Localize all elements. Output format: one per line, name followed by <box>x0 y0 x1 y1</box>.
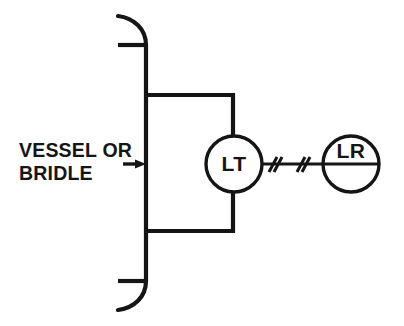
instrument-bubble-lt[interactable]: LT <box>206 136 262 192</box>
lower-impulse-tap-line <box>146 192 233 231</box>
electric-signal-group <box>262 157 323 172</box>
vessel-annotation-line-1: VESSEL OR <box>19 139 132 161</box>
lt-bubble-tag: LT <box>221 152 246 175</box>
instrument-bubble-lr[interactable]: LR <box>323 136 379 192</box>
vessel-annotation-line-2: BRIDLE <box>19 162 93 184</box>
vessel-annotation-label: VESSEL OR BRIDLE <box>19 139 132 184</box>
pid-diagram-svg: LT LR VESSEL OR BRIDLE <box>0 0 404 326</box>
vessel-top-head-arc <box>118 16 146 45</box>
upper-impulse-tap-line <box>146 95 233 136</box>
vessel-bottom-head-arc <box>118 281 146 310</box>
pid-diagram-canvas: LT LR VESSEL OR BRIDLE <box>0 0 404 326</box>
lr-bubble-tag: LR <box>337 139 366 162</box>
